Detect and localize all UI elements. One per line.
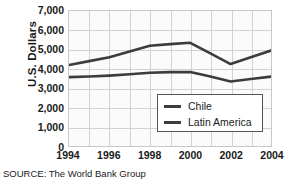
y-tick-label: 4,000 [20,64,64,75]
x-tick-label: 2000 [170,150,210,161]
y-tick-label: 3,000 [20,83,64,94]
y-tick-label: 1,000 [20,122,64,133]
chart-legend: Chile Latin America [157,94,263,132]
legend-label-latin-america: Latin America [188,117,252,128]
chart-figure: U.S. Dollars 01,0002,0003,0004,0005,0006… [0,0,289,184]
y-tick-label: 6,000 [20,25,64,36]
y-tick-label: 5,000 [20,44,64,55]
x-tick-label: 1994 [48,150,88,161]
x-tick-label: 2004 [252,150,289,161]
legend-label-chile: Chile [188,101,212,112]
series-line-latin-america [69,72,271,82]
y-axis-tick-labels: 01,0002,0003,0004,0005,0006,0007,000 [20,4,64,154]
legend-item-chile: Chile [164,98,262,114]
y-tick-label: 7,000 [20,5,64,16]
source-note: SOURCE: The World Bank Group [3,168,146,179]
legend-line-swatch-latin-america [164,121,181,124]
x-axis-tick-labels: 199419961998200020022004 [68,150,272,166]
y-tick-label: 2,000 [20,103,64,114]
x-tick-label: 2002 [211,150,251,161]
legend-item-latin-america: Latin America [164,114,262,130]
legend-line-swatch-chile [164,105,181,108]
x-tick-label: 1996 [89,150,129,161]
series-line-chile [69,43,271,65]
x-tick-label: 1998 [130,150,170,161]
